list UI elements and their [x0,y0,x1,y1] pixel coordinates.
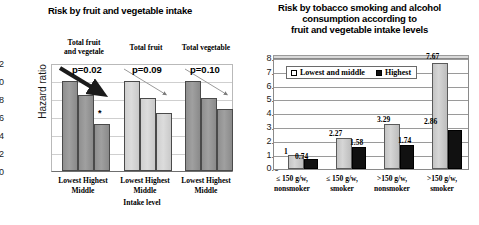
right-value-g3-lowest-middle: 3.29 [377,115,390,124]
right-xcat-1-line2: nonsmoker [264,184,320,194]
solid-square-icon [376,70,382,76]
left-y-tick: 0.6 [0,113,4,123]
right-xcat-4-line2: smoker [414,184,470,194]
right-value-g3-highest: 1.74 [398,136,411,145]
left-y-tick: 0.4 [0,131,4,141]
left-chart-panel: Risk by fruit and vegetable intake Hazar… [0,0,240,225]
right-value-g1-lowest-middle: 1 [284,147,288,156]
right-chart-title-line2: consumption according to [244,13,475,24]
two-panel-figure: Risk by fruit and vegetable intake Hazar… [0,0,479,225]
right-chart-title-line3: fruit and vegetable intake levels [244,24,475,35]
left-xcat-g2-middle: Middle [112,186,178,196]
right-value-text: 0.74 [295,152,308,161]
left-group-header-2-line1: Total fruit [118,43,174,52]
right-value-text: 1.74 [398,136,411,145]
open-square-icon [291,70,297,76]
right-chart-title: Risk by tobacco smoking and alcohol cons… [244,2,475,35]
right-value-text: 1 [284,147,288,156]
left-xcat-g1-row1: Lowest Highest [50,176,116,186]
right-xcat-2-line2: smoker [314,184,370,194]
right-chart-title-line1: Risk by tobacco smoking and alcohol [244,2,475,13]
right-xcat-3: >150 g/w, nonsmoker [364,174,420,194]
right-value-g4-highest: 2.86 [424,117,437,126]
right-value-g2-highest: 1.58 [350,138,363,147]
left-x-axis-title: Intake level [51,198,233,207]
right-bar-g3-highest [400,145,414,169]
left-group-header-1-line2: and vegetale [52,47,116,56]
right-xcat-2-line1: ≤ 150 g/w, [314,174,370,184]
left-group-header-2: Total fruit [118,43,174,52]
right-bar-g3-lowest-middle [384,124,400,169]
left-pvalue-3: p=0.10 [190,64,220,75]
left-y-tick: 0.2 [0,149,4,159]
right-xcat-3-line2: nonsmoker [364,184,420,194]
left-chart-title: Risk by fruit and vegetable intake [8,5,232,16]
right-xcat-4-line1: >150 g/w, [414,174,470,184]
left-xcat-g3-lowest: Lowest [181,176,204,185]
right-xcat-3-line1: >150 g/w, [364,174,420,184]
left-xcat-g1-middle: Middle [50,186,116,196]
left-pvalue-2: p=0.09 [132,64,162,75]
left-group-header-1: Total fruit and vegetale [52,38,116,56]
left-group-header-3-line1: Total vegetable [175,43,237,52]
legend-label-highest: Highest [385,68,411,77]
left-annotation-arrows [52,65,234,173]
right-bar-g4-highest [448,130,462,170]
right-value-text: 2.27 [329,129,342,138]
right-value-text: 3.29 [377,115,390,124]
left-group-header-1-line1: Total fruit [52,38,116,47]
legend-item-highest: Highest [376,68,411,77]
left-xcat-group-3: Lowest Highest Middle [173,176,239,195]
left-xcat-g3-highest: Highest [206,176,231,185]
right-chart-panel: Risk by tobacco smoking and alcohol cons… [240,0,479,225]
right-chart-legend: Lowest and middle Highest [286,66,417,79]
left-y-tick: 0.8 [0,95,4,105]
left-xcat-g3-row1: Lowest Highest [173,176,239,186]
left-pvalue-1: p=0.02 [72,64,102,75]
left-y-tick: 0.0 [0,167,4,177]
left-xcat-g1-highest: Highest [83,176,108,185]
left-xcat-group-2: Lowest Highest Middle [112,176,178,195]
left-significance-star: * [98,108,102,118]
left-xcat-g2-row1: Lowest Highest [112,176,178,186]
left-y-tick: 1.2 [0,59,4,69]
left-xcat-group-1: Lowest Highest Middle [50,176,116,195]
right-xcat-1-line1: ≤ 150 g/w, [264,174,320,184]
right-bar-g2-highest [352,147,366,169]
right-value-g1-highest: 0.74 [295,152,308,161]
legend-label-lowest-and-middle: Lowest and middle [300,68,365,77]
right-value-text: 7.67 [426,52,439,61]
left-plot-area: * [51,64,233,172]
right-value-text: 1.58 [350,138,363,147]
left-xcat-g2-highest: Highest [145,176,170,185]
left-xcat-g2-lowest: Lowest [120,176,143,185]
left-y-axis-label: Hazard ratio [37,47,48,137]
right-xcat-1: ≤ 150 g/w, nonsmoker [264,174,320,194]
legend-item-lowest-and-middle: Lowest and middle [291,68,365,77]
right-xcat-4: >150 g/w, smoker [414,174,470,194]
left-xcat-g1-lowest: Lowest [58,176,81,185]
left-xcat-g3-middle: Middle [173,186,239,196]
right-xcat-2: ≤ 150 g/w, smoker [314,174,370,194]
right-value-text: 2.86 [424,117,437,126]
left-group-header-3: Total vegetable [175,43,237,52]
left-y-tick: 1.0 [0,77,4,87]
right-value-g2-lowest-middle: 2.27 [329,129,342,138]
right-value-g4-lowest-middle: 7.67 [426,52,439,61]
